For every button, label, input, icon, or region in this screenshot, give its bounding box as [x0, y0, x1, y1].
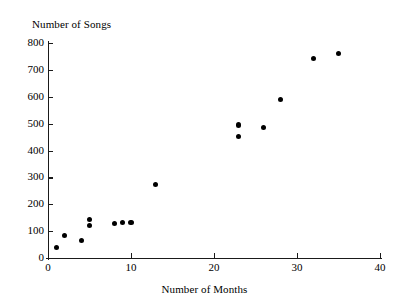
- x-axis-title: Number of Months: [0, 283, 409, 295]
- x-tick-label: 40: [360, 262, 400, 273]
- y-tick-mark: [48, 258, 53, 259]
- x-axis-line: [46, 258, 382, 259]
- y-tick-label: 500: [0, 118, 44, 129]
- y-axis-title: Number of Songs: [32, 18, 111, 30]
- y-tick-label: 600: [0, 91, 44, 102]
- data-point: [128, 220, 133, 225]
- x-tick-label: 10: [111, 262, 151, 273]
- y-tick-label: 200: [0, 198, 44, 209]
- x-tick-label: 0: [28, 262, 68, 273]
- y-tick-label: 300: [0, 171, 44, 182]
- x-tick-mark: [380, 253, 381, 258]
- y-tick-label: 100: [0, 225, 44, 236]
- x-tick-label: 20: [194, 262, 234, 273]
- plot-area: [48, 43, 380, 258]
- scatter-chart: Number of Songs 010020030040050060070080…: [0, 0, 409, 304]
- y-tick-label: 700: [0, 64, 44, 75]
- x-tick-label: 30: [277, 262, 317, 273]
- data-point: [278, 97, 283, 102]
- y-tick-label: 400: [0, 145, 44, 156]
- y-tick-label: 800: [0, 37, 44, 48]
- data-point: [336, 51, 341, 56]
